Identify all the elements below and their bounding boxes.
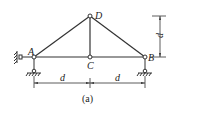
joint-b (143, 55, 147, 59)
node-label-a: A (27, 46, 35, 57)
figure-caption: (a) (82, 93, 93, 105)
dim-label-left: d (60, 72, 66, 83)
node-label-c: C (87, 60, 94, 71)
dim-label-right: d (115, 72, 121, 83)
joint-d (88, 14, 92, 18)
dim-label-vertical: d (154, 32, 165, 38)
member-a-d (34, 16, 90, 57)
joint-c (88, 55, 92, 59)
truss-diagram: A C B D d d d (a) (0, 0, 197, 113)
node-label-d: D (94, 10, 103, 21)
horizontal-dimension (34, 76, 145, 88)
member-d-b (90, 16, 145, 57)
node-label-b: B (148, 52, 154, 63)
